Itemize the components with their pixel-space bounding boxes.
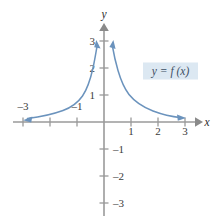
curve-right-branch xyxy=(109,40,186,121)
y-tick-label--1: –1 xyxy=(112,143,124,155)
y-tick-label-1: 1 xyxy=(90,89,96,101)
x-axis xyxy=(13,117,203,127)
left-branch-path xyxy=(28,46,98,119)
right-branch-up-arrowhead xyxy=(109,40,115,49)
x-tick-label-1: 1 xyxy=(128,125,134,137)
x-tick-label--3: –3 xyxy=(17,100,30,112)
y-tick-label--2: –2 xyxy=(112,170,124,182)
x-axis-arrowhead xyxy=(195,117,203,127)
graph-canvas: –3 –1 1 2 3 3 2 1 –1 –2 –3 x y xyxy=(0,0,215,224)
y-tick-label--3: –3 xyxy=(112,197,125,209)
x-axis-tick-labels: –3 –1 1 2 3 xyxy=(17,100,189,137)
function-label-box: y = f (x) xyxy=(143,63,198,80)
y-axis xyxy=(99,23,109,216)
curve-left-branch xyxy=(23,40,101,123)
x-axis-label: x xyxy=(203,116,210,128)
right-branch-path xyxy=(112,46,181,118)
y-tick-label-3: 3 xyxy=(90,35,96,47)
y-axis-arrowhead xyxy=(99,23,109,31)
x-tick-label-3: 3 xyxy=(182,125,188,137)
function-label-text: y = f (x) xyxy=(151,65,190,78)
y-axis-label: y xyxy=(100,8,107,21)
function-graph-figure: –3 –1 1 2 3 3 2 1 –1 –2 –3 x y xyxy=(0,0,215,224)
x-tick-label-2: 2 xyxy=(155,125,161,137)
